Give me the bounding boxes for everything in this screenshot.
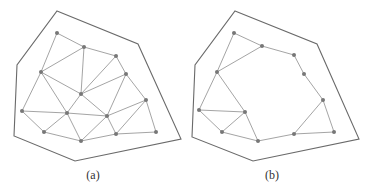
mesh-edge — [44, 132, 81, 141]
mesh-node — [42, 130, 46, 134]
mesh-edge — [234, 33, 262, 46]
mesh-node — [292, 53, 296, 57]
mesh-edge — [217, 72, 245, 112]
mesh-edge — [116, 100, 146, 134]
caption-a: (a) — [86, 168, 99, 183]
mesh-diagram-figure: (a) (b) — [0, 0, 370, 194]
mesh-node — [114, 132, 118, 136]
mesh-edge — [84, 47, 116, 56]
mesh-node — [332, 130, 336, 134]
mesh-edge — [222, 132, 258, 141]
mesh-edge — [67, 113, 81, 141]
mesh-edge — [57, 33, 84, 47]
mesh-node — [82, 45, 86, 49]
mesh-edge — [41, 47, 84, 72]
mesh-edge — [41, 72, 81, 94]
mesh-node — [124, 72, 128, 76]
mesh-edge — [81, 56, 116, 94]
mesh-edge — [222, 112, 245, 132]
mesh-node — [292, 132, 296, 136]
mesh-node — [256, 139, 260, 143]
mesh-node — [302, 72, 306, 76]
mesh-edge — [44, 113, 67, 132]
mesh-node — [321, 98, 325, 102]
mesh-edge — [116, 56, 126, 74]
mesh-diagram-canvas — [0, 0, 370, 194]
mesh-edge — [126, 74, 146, 100]
mesh-edge — [217, 33, 234, 72]
mesh-node — [20, 109, 24, 113]
mesh-edge — [245, 112, 258, 141]
mesh-edge — [323, 100, 334, 132]
mesh-node — [215, 70, 219, 74]
mesh-node — [55, 31, 59, 35]
mesh-node — [114, 54, 118, 58]
mesh-edge — [199, 72, 217, 110]
mesh-node — [65, 111, 69, 115]
mesh-edge — [81, 47, 84, 94]
mesh-edge — [116, 132, 156, 134]
mesh-edge — [22, 111, 67, 113]
mesh-edge — [146, 100, 156, 132]
mesh-edge — [81, 116, 107, 141]
mesh-edge — [262, 46, 294, 55]
panel-a-full-triangulation — [14, 11, 181, 161]
caption-b: (b) — [265, 168, 279, 183]
boundary-polygon — [192, 11, 359, 161]
mesh-edge — [41, 72, 67, 113]
mesh-edge — [41, 33, 57, 72]
mesh-node — [220, 130, 224, 134]
panel-b-hollow-triangulation — [192, 11, 359, 161]
mesh-node — [232, 31, 236, 35]
mesh-edge — [294, 55, 304, 74]
mesh-node — [154, 130, 158, 134]
mesh-edge — [67, 94, 81, 113]
mesh-edge — [22, 72, 41, 111]
mesh-node — [79, 92, 83, 96]
mesh-edge — [258, 134, 294, 141]
mesh-edge — [22, 111, 44, 132]
mesh-edge — [199, 110, 245, 112]
boundary-polygon — [14, 11, 181, 161]
mesh-node — [260, 44, 264, 48]
mesh-edge — [199, 110, 222, 132]
mesh-edge — [294, 100, 323, 134]
mesh-node — [105, 114, 109, 118]
mesh-edge — [81, 74, 126, 94]
mesh-edge — [81, 94, 107, 116]
mesh-edge — [107, 116, 116, 134]
mesh-node — [79, 139, 83, 143]
mesh-edge — [67, 113, 107, 116]
mesh-node — [243, 110, 247, 114]
mesh-edge — [81, 134, 116, 141]
mesh-edge — [294, 132, 334, 134]
mesh-edge — [304, 74, 323, 100]
mesh-node — [39, 70, 43, 74]
mesh-node — [197, 108, 201, 112]
mesh-edge — [217, 46, 262, 72]
mesh-node — [144, 98, 148, 102]
